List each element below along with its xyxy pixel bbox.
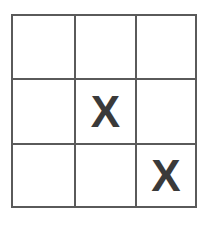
cell-r2-c1[interactable] bbox=[76, 145, 135, 206]
tic-tac-toe-board: X X bbox=[11, 14, 197, 208]
cell-r0-c0[interactable] bbox=[13, 16, 74, 78]
cell-r2-c2[interactable]: X bbox=[137, 145, 195, 206]
cell-r0-c1[interactable] bbox=[76, 16, 135, 78]
cell-r1-c0[interactable] bbox=[13, 80, 74, 143]
x-mark: X bbox=[151, 154, 180, 198]
cell-r2-c0[interactable] bbox=[13, 145, 74, 206]
cell-r1-c2[interactable] bbox=[137, 80, 195, 143]
x-mark: X bbox=[91, 90, 120, 134]
cell-r1-c1[interactable]: X bbox=[76, 80, 135, 143]
cell-r0-c2[interactable] bbox=[137, 16, 195, 78]
